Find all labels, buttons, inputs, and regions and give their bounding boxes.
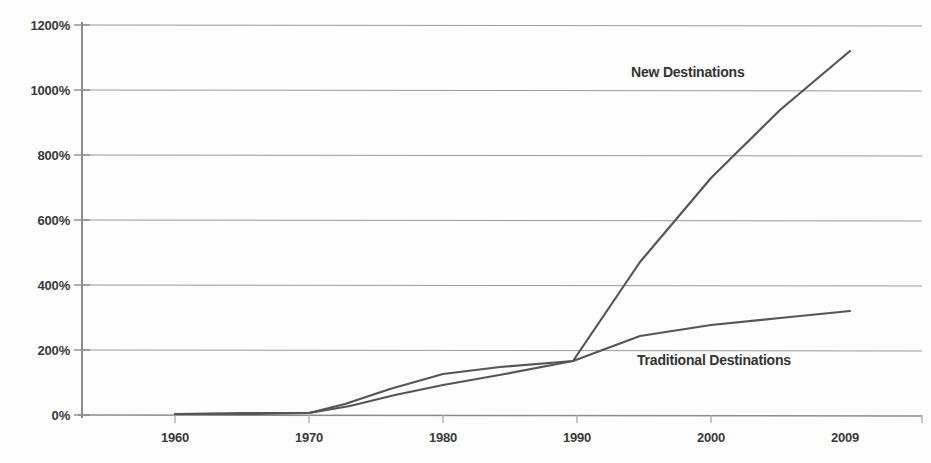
ytick-label-1000: 1000% bbox=[4, 83, 70, 98]
xtick-label-2009: 2009 bbox=[810, 430, 880, 445]
ytick-label-600: 600% bbox=[4, 213, 70, 228]
ytick-label-0: 0% bbox=[4, 408, 70, 423]
x-axis-line bbox=[78, 415, 922, 416]
xtick-label-1990: 1990 bbox=[542, 430, 612, 445]
ytick-label-1200: 1200% bbox=[4, 18, 70, 33]
gridline-1000 bbox=[82, 90, 922, 91]
gridline-800 bbox=[82, 155, 922, 156]
gridline-400 bbox=[82, 285, 922, 286]
chart-canvas bbox=[0, 0, 931, 463]
series-label-traditional-destinations: Traditional Destinations bbox=[637, 352, 791, 368]
axes bbox=[74, 22, 922, 423]
xtick-label-1980: 1980 bbox=[408, 430, 478, 445]
line-chart: 1200% 1000% 800% 600% 400% 200% 0% 1960 … bbox=[0, 0, 931, 463]
xtick-label-2000: 2000 bbox=[676, 430, 746, 445]
gridline-600 bbox=[82, 220, 922, 221]
ytick-label-400: 400% bbox=[4, 278, 70, 293]
gridlines bbox=[82, 25, 922, 351]
ytick-label-800: 800% bbox=[4, 148, 70, 163]
xtick-label-1960: 1960 bbox=[140, 430, 210, 445]
series-label-new-destinations: New Destinations bbox=[631, 64, 745, 80]
gridline-1200 bbox=[82, 25, 922, 26]
xtick-label-1970: 1970 bbox=[274, 430, 344, 445]
gridline-200 bbox=[82, 350, 922, 351]
ytick-label-200: 200% bbox=[4, 343, 70, 358]
